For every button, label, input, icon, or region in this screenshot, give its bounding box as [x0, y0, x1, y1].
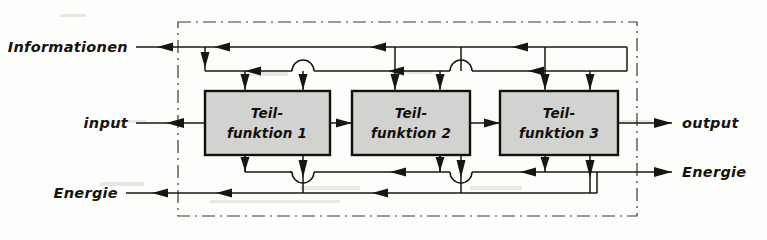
- label-energie-input: Energie: [54, 185, 119, 201]
- fn1-to-fn2-link: [330, 119, 352, 128]
- fn3-bottom-outputs: [541, 155, 595, 193]
- arrowhead-energie-mid: [390, 168, 406, 177]
- function-block-1-line2: funktion 1: [227, 125, 307, 141]
- label-energie-output: Energie: [682, 164, 747, 180]
- function-block-3-line1: Teil-: [543, 105, 575, 121]
- arrowhead-energie-out-2: [654, 167, 672, 177]
- main-output-line: [618, 118, 672, 128]
- function-block-2-line1: Teil-: [395, 105, 427, 121]
- fn3-top-inputs: [541, 47, 595, 91]
- function-block-3[interactable]: Teil- funktion 3: [500, 91, 618, 155]
- function-block-3-line2: funktion 3: [519, 125, 599, 141]
- informationen-branch-to-fn1: [201, 47, 293, 76]
- block-diagram-svg: Teil- funktion 1 Teil- funktion 2 Teil- …: [0, 0, 767, 240]
- arrowhead-energie-out-1: [520, 168, 536, 177]
- label-input: input: [84, 115, 129, 131]
- line-hop-top-1: [292, 60, 314, 71]
- function-block-1-line1: Teil-: [251, 105, 283, 121]
- function-block-2-line2: funktion 2: [371, 125, 451, 141]
- diagram-root: Teil- funktion 1 Teil- funktion 2 Teil- …: [0, 0, 767, 240]
- function-block-1[interactable]: Teil- funktion 1: [205, 91, 330, 155]
- energie-upper-bus-left: [245, 155, 292, 172]
- fn2-to-fn3-link: [470, 119, 500, 128]
- function-block-2[interactable]: Teil- funktion 2: [352, 91, 470, 155]
- fn1-bottom-outputs: [241, 155, 308, 193]
- label-informationen: Informationen: [8, 39, 128, 55]
- main-input-line: [136, 118, 205, 128]
- label-output: output: [682, 115, 739, 131]
- energie-input-line: [126, 189, 300, 198]
